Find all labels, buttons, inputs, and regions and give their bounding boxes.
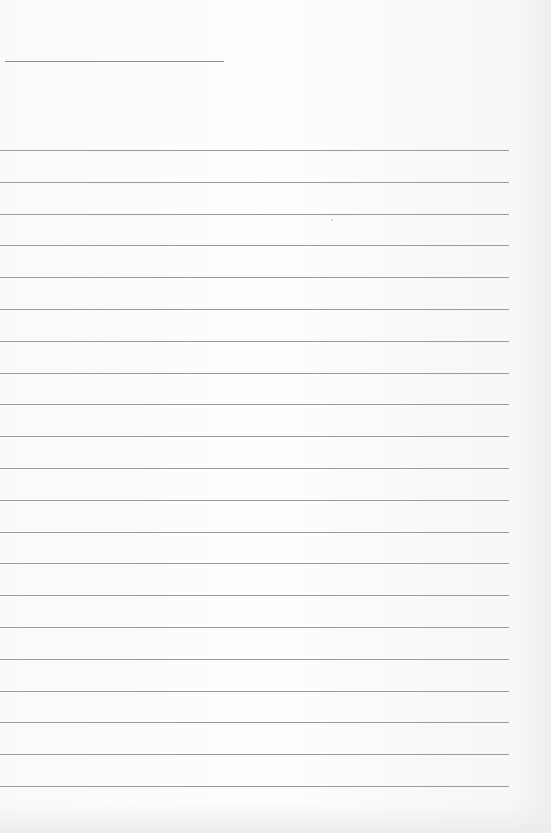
ruled-line <box>0 722 509 723</box>
ruled-line <box>0 341 509 342</box>
ruled-line <box>0 150 509 151</box>
ruled-line <box>0 500 509 501</box>
ruled-line <box>0 659 509 660</box>
ruled-line <box>0 563 509 564</box>
paper-edge-shadow-right <box>511 0 551 833</box>
ruled-line <box>0 277 509 278</box>
paper-edge-shadow-bottom <box>0 803 551 833</box>
ruled-line <box>0 182 509 183</box>
ruled-line <box>0 468 509 469</box>
ruled-line <box>0 309 509 310</box>
ruled-line <box>0 627 509 628</box>
ruled-line <box>0 532 509 533</box>
ruled-line <box>0 373 509 374</box>
lined-paper <box>0 0 551 833</box>
ruled-line <box>0 691 509 692</box>
ruled-line <box>0 786 509 787</box>
ruled-line <box>0 245 509 246</box>
paper-speck <box>331 219 333 221</box>
title-line <box>5 61 224 62</box>
ruled-line <box>0 754 509 755</box>
ruled-line <box>0 436 509 437</box>
ruled-line <box>0 595 509 596</box>
ruled-line <box>0 404 509 405</box>
ruled-line <box>0 214 509 215</box>
